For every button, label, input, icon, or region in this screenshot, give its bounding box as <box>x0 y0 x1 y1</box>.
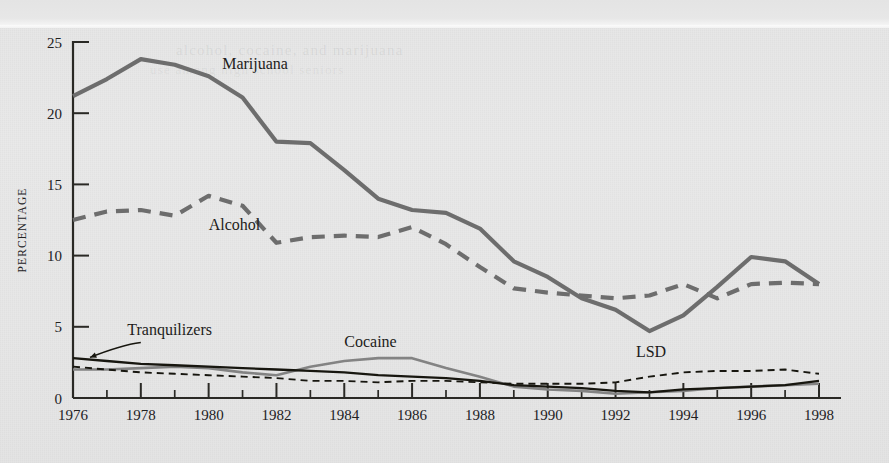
x-tick-label: 1988 <box>465 407 495 423</box>
x-tick-label: 1994 <box>668 407 699 423</box>
y-tick-label: 15 <box>47 177 62 193</box>
x-tick-label: 1976 <box>58 407 89 423</box>
series-label-alcohol: Alcohol <box>209 216 261 233</box>
series-line-marijuana <box>73 59 819 331</box>
series-label-tranquilizers: Tranquilizers <box>127 321 212 339</box>
chart-tick-marks <box>73 42 819 398</box>
x-tick-label: 1984 <box>329 407 360 423</box>
chart-annotations <box>90 342 141 357</box>
x-tick-label: 1978 <box>126 407 156 423</box>
y-tick-label: 0 <box>55 391 63 407</box>
y-axis-title: PERCENTAGE <box>16 188 28 273</box>
y-axis-title-text: PERCENTAGE <box>16 188 28 273</box>
series-label-marijuana: Marijuana <box>222 55 288 73</box>
line-chart: 0510152025 19761978198019821984198619881… <box>0 0 889 463</box>
y-axis-tick-labels: 0510152025 <box>47 35 62 407</box>
series-label-lsd: LSD <box>636 343 666 360</box>
tranquilizers-leader <box>90 342 141 357</box>
y-tick-label: 20 <box>47 106 62 122</box>
y-tick-label: 25 <box>47 35 62 51</box>
x-tick-label: 1992 <box>601 407 631 423</box>
x-tick-label: 1998 <box>804 407 834 423</box>
series-label-cocaine: Cocaine <box>344 333 396 350</box>
y-tick-label: 10 <box>47 248 62 264</box>
x-tick-label: 1990 <box>533 407 563 423</box>
x-tick-label: 1986 <box>397 407 428 423</box>
chart-series-lines <box>73 59 819 394</box>
x-tick-label: 1982 <box>261 407 291 423</box>
series-inline-labels: MarijuanaAlcoholCocaineTranquilizersLSD <box>127 55 666 360</box>
y-tick-label: 5 <box>55 319 63 335</box>
x-tick-label: 1996 <box>736 407 767 423</box>
x-tick-label: 1980 <box>194 407 224 423</box>
series-line-tranquilizers <box>73 358 819 392</box>
x-axis-tick-labels: 1976197819801982198419861988199019921994… <box>58 407 834 423</box>
